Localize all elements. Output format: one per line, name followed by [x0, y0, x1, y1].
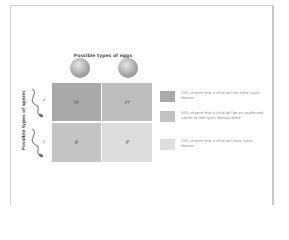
- egg-allele-1: F: [70, 61, 90, 66]
- sperm-axis-label: Possible types of sperm: [21, 86, 26, 156]
- legend-item-3: 25% chance that a child will have cystic…: [160, 139, 265, 150]
- cell-carrier-2: fF: [52, 123, 101, 162]
- legend-swatch-1: [160, 91, 175, 102]
- cell-ff-recessive: ff: [102, 123, 152, 162]
- egg-allele-2: f: [118, 61, 138, 66]
- cell-ff-dominant: FF: [52, 83, 101, 121]
- punnett-square: FF Ff fF ff: [52, 83, 152, 162]
- legend-item-1: 25% chance that a child will not have cy…: [160, 91, 265, 102]
- legend-text-2: 50% chance that a child will be an unaff…: [181, 111, 265, 121]
- cell-carrier-1: Ff: [102, 83, 152, 121]
- sperm-icon-1: [28, 88, 46, 118]
- legend-item-2: 50% chance that a child will be an unaff…: [160, 111, 265, 122]
- sperm-allele-1: F: [43, 98, 45, 103]
- sperm-allele-2: f: [43, 140, 44, 145]
- egg-icon-1: F: [70, 58, 90, 78]
- legend-text-1: 25% chance that a child will not have cy…: [181, 91, 265, 101]
- egg-icon-2: f: [118, 58, 138, 78]
- legend-text-3: 25% chance that a child will have cystic…: [181, 139, 265, 149]
- legend-swatch-2: [160, 111, 175, 122]
- legend-swatch-3: [160, 139, 175, 150]
